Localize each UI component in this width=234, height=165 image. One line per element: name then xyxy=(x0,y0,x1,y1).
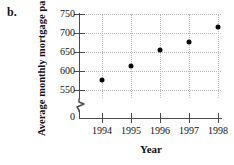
panel-label: b. xyxy=(7,6,17,18)
y-tick-label-600: 600 xyxy=(47,66,75,76)
figure-panel-b: b. Average monthly mortgage pament (in d… xyxy=(0,0,234,165)
y-tick-700 xyxy=(74,33,85,34)
data-point-1994 xyxy=(100,78,105,83)
gridline-x-1994 xyxy=(102,14,103,98)
data-point-1995 xyxy=(129,64,134,69)
data-point-1998 xyxy=(216,25,221,30)
y-tick-750 xyxy=(74,14,85,15)
x-tick-1996 xyxy=(160,113,161,123)
axis-break-icon xyxy=(74,98,88,112)
data-point-1996 xyxy=(158,48,163,53)
x-tick-1995 xyxy=(131,113,132,123)
y-tick-600 xyxy=(74,71,85,72)
y-tick-label-750: 750 xyxy=(47,9,75,19)
y-tick-550 xyxy=(74,90,85,91)
y-tick-label-650: 650 xyxy=(47,47,75,57)
plot-area xyxy=(80,14,221,98)
x-tick-1994 xyxy=(102,113,103,123)
data-point-1997 xyxy=(187,40,192,45)
x-tick-label-1998: 1998 xyxy=(201,126,234,136)
gridline-x-1996 xyxy=(160,14,161,98)
y-tick-label-0: 0 xyxy=(47,112,75,122)
x-tick-1998 xyxy=(218,113,219,123)
gridline-x-1995 xyxy=(131,14,132,98)
y-axis-line xyxy=(79,13,80,99)
y-tick-label-700: 700 xyxy=(47,28,75,38)
x-axis-title: Year xyxy=(80,144,222,155)
gridline-x-1997 xyxy=(189,14,190,98)
x-axis-line xyxy=(79,118,222,119)
y-tick-650 xyxy=(74,52,85,53)
x-tick-1997 xyxy=(189,113,190,123)
y-tick-label-550: 550 xyxy=(47,85,75,95)
